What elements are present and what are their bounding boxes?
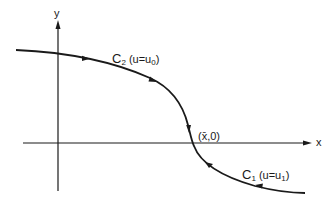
curve-label-c1: C1 (u=u1) xyxy=(242,168,289,183)
direction-arrow-icon xyxy=(82,56,90,61)
point-label: (x̄,0) xyxy=(198,131,220,142)
x-axis-arrow-icon xyxy=(303,141,312,146)
direction-arrow-icon xyxy=(149,77,158,83)
curve-subscript: 1 xyxy=(251,174,255,183)
curve-name: C xyxy=(242,167,251,182)
curve-condition: (u=u xyxy=(259,169,281,181)
condition-close: ) xyxy=(156,53,160,65)
curve-subscript: 2 xyxy=(121,58,125,67)
y-axis-arrow-icon xyxy=(56,20,61,29)
x-axis-label: x xyxy=(316,137,322,148)
curve-name: C xyxy=(112,51,121,66)
curve-label-c2: C2 (u=u0) xyxy=(112,52,159,67)
condition-close: ) xyxy=(286,169,290,181)
curve-condition: (u=u xyxy=(129,53,151,65)
y-axis-label: y xyxy=(54,8,60,19)
